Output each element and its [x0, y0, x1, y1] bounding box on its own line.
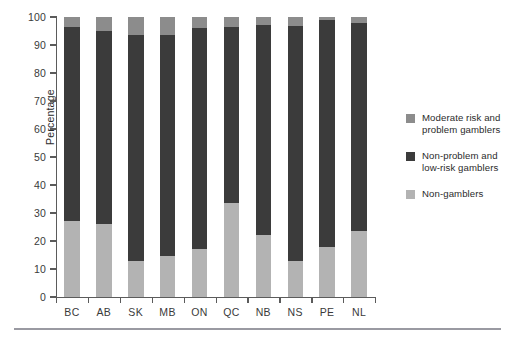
- bar-segment: [256, 235, 272, 297]
- bar-mb: [160, 17, 176, 297]
- y-axis-tick-mark: [50, 156, 56, 157]
- bar-segment: [192, 249, 208, 297]
- bar-segment: [160, 35, 176, 256]
- bar-segment: [319, 20, 335, 247]
- x-axis-tick-label-sk: SK: [120, 306, 152, 319]
- bar-qc: [224, 17, 240, 297]
- bar-segment: [192, 17, 208, 28]
- x-axis-tick-label-ns: NS: [279, 306, 311, 319]
- bar-segment: [192, 28, 208, 249]
- x-axis-tick-label-nl: NL: [343, 306, 375, 319]
- bar-segment: [64, 17, 80, 27]
- y-axis-tick-mark: [50, 72, 56, 73]
- legend-item: Non-gamblers: [406, 188, 512, 200]
- bar-segment: [128, 261, 144, 297]
- x-axis-tick-mark: [247, 297, 248, 303]
- bar-segment: [288, 26, 304, 260]
- y-axis-tick-mark: [50, 240, 56, 241]
- legend-label: Moderate risk and problem gamblers: [422, 112, 512, 137]
- bar-segment: [319, 247, 335, 297]
- y-axis-tick-mark: [50, 100, 56, 101]
- x-axis-tick-label-nb: NB: [247, 306, 279, 319]
- bar-pe: [319, 17, 335, 297]
- y-axis-tick-label: 90: [34, 38, 46, 52]
- legend-label: Non-problem and low-risk gamblers: [422, 150, 512, 175]
- stacked-bar-chart-figure: Percentage 0102030405060708090100 BCABSK…: [0, 0, 515, 347]
- x-axis-tick-mark: [311, 297, 312, 303]
- bar-ab: [96, 17, 112, 297]
- y-axis-line: [56, 16, 57, 298]
- legend-label: Non-gamblers: [422, 188, 512, 200]
- bar-segment: [224, 17, 240, 27]
- bar-segment: [256, 25, 272, 235]
- bar-nb: [256, 17, 272, 297]
- legend-item: Moderate risk and problem gamblers: [406, 112, 512, 137]
- y-axis-tick-mark: [50, 184, 56, 185]
- bar-segment: [96, 17, 112, 31]
- bar-segment: [256, 17, 272, 25]
- footer-divider-rule: [14, 328, 501, 330]
- y-axis-tick-label: 60: [34, 122, 46, 136]
- y-axis-tick-label: 40: [34, 178, 46, 192]
- bar-segment: [319, 17, 335, 20]
- bar-segment: [160, 256, 176, 297]
- bar-segment: [351, 231, 367, 297]
- x-axis-tick-label-on: ON: [184, 306, 216, 319]
- bar-segment: [64, 221, 80, 297]
- y-axis-tick-mark: [50, 128, 56, 129]
- y-axis-tick-label: 50: [34, 150, 46, 164]
- x-axis-tick-mark: [152, 297, 153, 303]
- x-axis-tick-mark: [375, 297, 376, 303]
- legend-swatch-icon: [406, 190, 415, 199]
- x-axis-tick-mark: [279, 297, 280, 303]
- bar-segment: [128, 35, 144, 261]
- bar-segment: [64, 27, 80, 221]
- x-axis-tick-mark: [184, 297, 185, 303]
- y-axis-tick-label: 20: [34, 234, 46, 248]
- bar-segment: [351, 17, 367, 23]
- y-axis-tick-mark: [50, 212, 56, 213]
- y-axis-tick-label: 0: [40, 290, 46, 304]
- y-axis-tick-label: 10: [34, 262, 46, 276]
- y-axis-tick-label: 100: [28, 10, 46, 24]
- bar-segment: [351, 23, 367, 231]
- bar-ns: [288, 17, 304, 297]
- bar-on: [192, 17, 208, 297]
- bar-sk: [128, 17, 144, 297]
- x-axis-tick-label-pe: PE: [311, 306, 343, 319]
- x-axis-tick-mark: [343, 297, 344, 303]
- x-axis-tick-label-qc: QC: [216, 306, 248, 319]
- x-axis-tick-mark: [88, 297, 89, 303]
- x-axis-tick-label-bc: BC: [56, 306, 88, 319]
- bar-segment: [224, 27, 240, 203]
- legend-item: Non-problem and low-risk gamblers: [406, 150, 512, 175]
- bar-nl: [351, 17, 367, 297]
- x-axis-tick-label-mb: MB: [152, 306, 184, 319]
- y-axis-tick-mark: [50, 268, 56, 269]
- bar-segment: [288, 261, 304, 297]
- legend-swatch-icon: [406, 152, 415, 161]
- legend-swatch-icon: [406, 114, 415, 123]
- y-axis-tick-label: 30: [34, 206, 46, 220]
- x-axis-tick-label-ab: AB: [88, 306, 120, 319]
- x-axis-tick-mark: [120, 297, 121, 303]
- x-axis-tick-mark: [56, 297, 57, 303]
- bar-segment: [96, 224, 112, 297]
- bar-segment: [128, 17, 144, 35]
- y-axis-tick-mark: [50, 16, 56, 17]
- bar-bc: [64, 17, 80, 297]
- bar-segment: [224, 203, 240, 297]
- y-axis-tick-mark: [50, 44, 56, 45]
- bar-segment: [96, 31, 112, 224]
- chart-legend: Moderate risk and problem gamblersNon-pr…: [406, 112, 512, 213]
- x-axis-tick-mark: [216, 297, 217, 303]
- bar-segment: [288, 17, 304, 26]
- y-axis-tick-label: 70: [34, 94, 46, 108]
- y-axis-tick-label: 80: [34, 66, 46, 80]
- bar-segment: [160, 17, 176, 35]
